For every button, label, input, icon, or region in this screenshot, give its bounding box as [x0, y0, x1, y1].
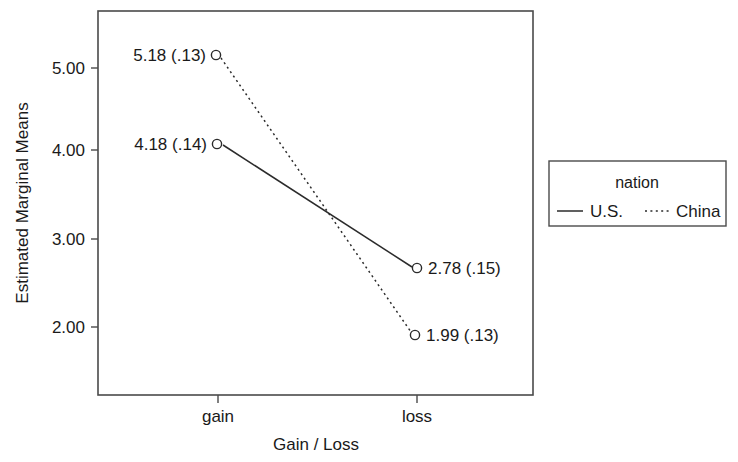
legend-label-us: U.S. [590, 202, 623, 221]
x-tick-label-gain: gain [202, 407, 234, 426]
y-tick-label-5: 5.00 [52, 59, 85, 78]
x-tick-label-loss: loss [402, 407, 432, 426]
data-label-china-loss: 1.99 (.13) [426, 326, 499, 345]
x-axis-title: Gain / Loss [273, 435, 359, 454]
chart-canvas: 5.00 4.00 3.00 2.00 Estimated Marginal M… [0, 0, 738, 462]
data-point-us-loss[interactable] [412, 263, 421, 272]
data-point-us-gain[interactable] [212, 139, 221, 148]
y-axis-title: Estimated Marginal Means [13, 102, 32, 303]
data-label-us-loss: 2.78 (.15) [428, 259, 501, 278]
data-point-china-gain[interactable] [211, 50, 220, 59]
data-point-china-loss[interactable] [410, 330, 419, 339]
legend-title: nation [615, 174, 659, 191]
data-label-us-gain: 4.18 (.14) [134, 135, 207, 154]
y-tick-label-4: 4.00 [52, 141, 85, 160]
data-label-china-gain: 5.18 (.13) [133, 46, 206, 65]
series-line-us [223, 145, 412, 267]
y-tick-label-3: 3.00 [52, 230, 85, 249]
estimated-marginal-means-chart: 5.00 4.00 3.00 2.00 Estimated Marginal M… [0, 0, 738, 462]
y-tick-label-2: 2.00 [52, 318, 85, 337]
legend-label-china: China [676, 202, 721, 221]
legend: nation U.S. China [549, 161, 726, 226]
series-line-china [221, 58, 411, 332]
